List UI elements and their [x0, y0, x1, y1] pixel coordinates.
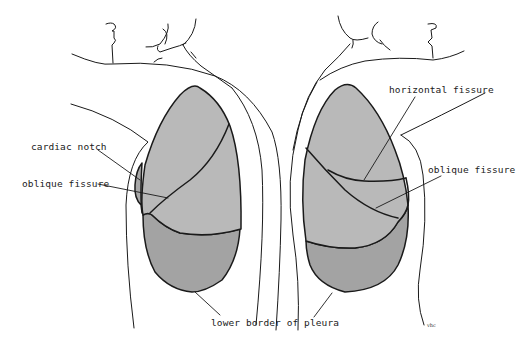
left-lower-border-leader: [195, 292, 220, 315]
cardiac-notch-label: cardiac notch: [31, 142, 107, 152]
left-chest-wall: [71, 104, 148, 328]
lung-lateral-views-figure: cardiac notch oblique fissure horizontal…: [0, 0, 524, 345]
left-upper-lobe: [142, 86, 241, 235]
artist-signature: vhc: [427, 322, 436, 328]
cardiac-notch-leader: [98, 150, 140, 180]
lower-border-of-pleura-label: lower border of pleura: [211, 318, 339, 328]
left-cardiac-notch: [135, 163, 142, 213]
right-lower-border-leader: [314, 293, 332, 317]
left-lateral-view: [71, 19, 281, 330]
horizontal-fissure-label: horizontal fissure: [389, 85, 494, 95]
right-oblique-fissure-label: oblique fissure: [428, 165, 515, 175]
left-oblique-fissure-label: oblique fissure: [22, 179, 109, 189]
right-upper-lobe: [303, 84, 408, 248]
